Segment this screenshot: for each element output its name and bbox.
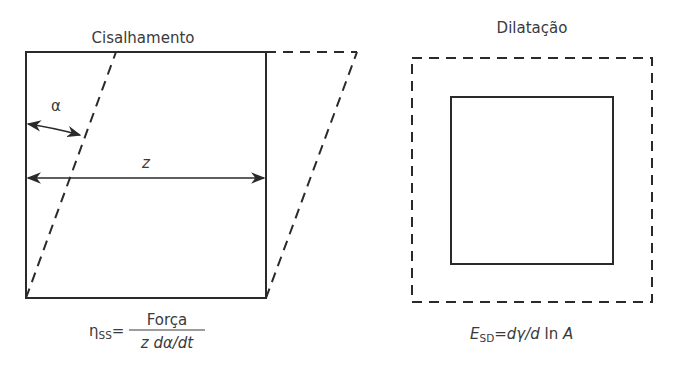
width-label-z: z bbox=[141, 154, 151, 172]
e-subscript: SD bbox=[479, 332, 494, 344]
shear-panel: Cisalhamento α z ηSS= Força z dα/dt bbox=[26, 29, 357, 352]
dilation-title: Dilatação bbox=[497, 19, 568, 37]
angle-arc-arrow bbox=[28, 124, 80, 135]
sheared-right-edge bbox=[266, 52, 357, 298]
expanded-volume-outline bbox=[412, 58, 652, 302]
eta-subscript: SS bbox=[99, 329, 113, 341]
sheared-block-outline bbox=[26, 52, 357, 298]
svg-text:ESD=dγ/d ln A: ESD=dγ/d ln A bbox=[470, 325, 573, 344]
rhs-area: A bbox=[562, 325, 573, 343]
formula-denominator: z dα/dt bbox=[140, 334, 195, 352]
rhs-ln: ln bbox=[540, 325, 563, 343]
angle-label-alpha: α bbox=[51, 97, 61, 115]
svg-text:ηSS=: ηSS= bbox=[89, 322, 124, 341]
sheared-left-edge bbox=[26, 52, 116, 298]
diagram-canvas: Cisalhamento α z ηSS= Força z dα/dt Dila… bbox=[0, 0, 675, 367]
equals-sign: = bbox=[112, 322, 125, 340]
formula-numerator: Força bbox=[147, 311, 188, 329]
rhs-derivative: dγ/d bbox=[507, 325, 540, 343]
shear-title: Cisalhamento bbox=[92, 29, 195, 47]
original-block bbox=[26, 52, 266, 298]
original-volume bbox=[451, 97, 613, 264]
eta-symbol: η bbox=[89, 322, 99, 340]
shear-viscosity-formula: ηSS= Força z dα/dt bbox=[89, 311, 205, 352]
equals-sign: = bbox=[494, 325, 507, 343]
dilational-viscosity-formula: ESD=dγ/d ln A bbox=[470, 325, 573, 344]
dilation-panel: Dilatação ESD=dγ/d ln A bbox=[412, 19, 652, 344]
